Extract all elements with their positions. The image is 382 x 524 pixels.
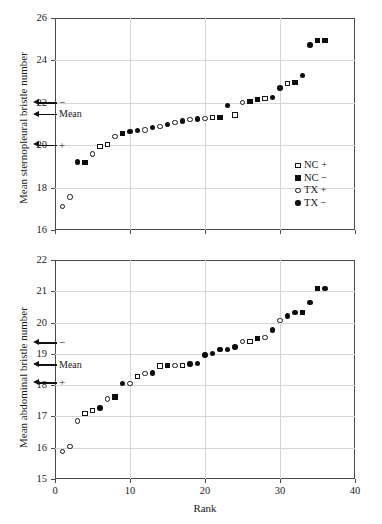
data-point-tx (285, 313, 290, 318)
x-tick-mark (55, 230, 56, 234)
annotation-label: Mean (59, 109, 82, 119)
data-point-nc (105, 142, 110, 147)
data-point-tx (67, 444, 72, 449)
data-point-nc (247, 99, 252, 104)
data-point-nc (210, 115, 215, 120)
arrow-left-icon (33, 338, 57, 347)
y-tick-mark (51, 188, 55, 189)
legend-label: NC − (304, 173, 327, 184)
y-tick-label: 16 (21, 225, 47, 236)
annotation-label: − (59, 337, 65, 348)
y-tick-mark (51, 260, 55, 261)
arrow-shaft (38, 145, 57, 146)
data-point-nc (82, 160, 87, 165)
legend-label: TX + (304, 185, 327, 196)
arrow-shaft (38, 364, 57, 365)
data-point-nc (300, 310, 305, 315)
annotation-arrow: + (33, 141, 65, 150)
arrow-shaft (38, 342, 57, 343)
x-tick-label: 20 (190, 486, 220, 497)
data-point-tx (202, 352, 207, 357)
data-point-tx (67, 194, 72, 199)
y-tick-label: 15 (21, 474, 47, 485)
arrow-left-icon (33, 378, 57, 387)
x-axis-title-rank: Rank (165, 503, 245, 514)
annotation-label: + (59, 377, 65, 388)
data-point-tx (232, 344, 237, 349)
data-point-nc (315, 38, 320, 43)
data-point-tx (262, 335, 267, 340)
x-tick-label: 10 (115, 486, 145, 497)
y-tick-mark (51, 354, 55, 355)
legend-swatch (292, 200, 304, 205)
data-point-tx (150, 370, 155, 375)
x-tick-mark (130, 479, 131, 483)
data-point-nc (112, 394, 117, 399)
legend-item: TX − (292, 198, 327, 209)
legend-item: TX + (292, 185, 327, 196)
data-point-nc (315, 286, 320, 291)
y-axis-title-sternopleural: Mean sternopleural bristle number (18, 52, 29, 204)
data-point-tx (120, 381, 125, 386)
data-point-tx (270, 327, 275, 332)
data-point-tx (292, 310, 297, 315)
data-point-tx (307, 300, 312, 305)
gridline-vertical (205, 18, 206, 230)
annotation-label: − (59, 97, 65, 108)
x-tick-mark (280, 230, 281, 234)
chart-panel-sternopleural: 161820222426 −Mean+ Mean sternopleural b… (0, 0, 382, 262)
data-point-tx (187, 361, 192, 366)
data-point-nc (322, 38, 327, 43)
arrow-shaft (38, 382, 57, 383)
legend-swatch (292, 163, 304, 168)
x-tick-mark (205, 230, 206, 234)
data-point-tx (180, 118, 185, 123)
y-tick-mark (51, 448, 55, 449)
annotation-arrow: Mean (33, 360, 82, 369)
data-point-tx (202, 116, 207, 121)
arrow-left-icon (33, 141, 57, 150)
chart-panel-abdominal: 1516171819202122 010203040 −Mean+ Mean a… (0, 255, 382, 524)
legend-item: NC − (292, 173, 327, 184)
legend-label: NC + (304, 160, 327, 171)
y-tick-label: 22 (21, 255, 47, 266)
legend-marker-tx (295, 200, 300, 205)
data-point-nc (255, 97, 260, 102)
data-point-nc (165, 363, 170, 368)
y-tick-label: 21 (21, 286, 47, 297)
legend: NC +NC −TX +TX − (292, 160, 327, 209)
legend-marker-nc (295, 163, 300, 168)
data-point-tx (277, 85, 282, 90)
data-point-tx (195, 361, 200, 366)
data-point-nc (82, 411, 87, 416)
arrow-left-icon (33, 98, 57, 107)
data-point-nc (232, 112, 237, 117)
y-tick-mark (51, 291, 55, 292)
annotation-arrow: − (33, 338, 65, 347)
y-axis-title-abdominal: Mean abdominal bristle number (18, 307, 29, 448)
data-point-tx (75, 159, 80, 164)
annotation-arrow: − (33, 98, 65, 107)
data-point-nc (247, 339, 252, 344)
y-tick-mark (51, 416, 55, 417)
x-tick-mark (205, 479, 206, 483)
x-tick-label: 0 (40, 486, 70, 497)
gridline-vertical (130, 18, 131, 230)
data-point-nc (157, 363, 162, 368)
annotation-arrow: Mean (33, 110, 82, 119)
data-point-tx (157, 124, 162, 129)
data-point-tx (127, 381, 132, 386)
figure-root: 161820222426 −Mean+ Mean sternopleural b… (0, 0, 382, 524)
data-point-tx (307, 42, 312, 47)
data-point-tx (127, 129, 132, 134)
gridline-vertical (130, 260, 131, 479)
data-point-nc (217, 115, 222, 120)
x-tick-label: 30 (265, 486, 295, 497)
data-point-nc (135, 374, 140, 379)
arrow-shaft (38, 114, 57, 115)
data-point-tx (172, 363, 177, 368)
data-point-nc (180, 363, 185, 368)
annotation-label: + (59, 140, 65, 151)
gridline-vertical (280, 260, 281, 479)
legend-marker-tx (295, 188, 300, 193)
